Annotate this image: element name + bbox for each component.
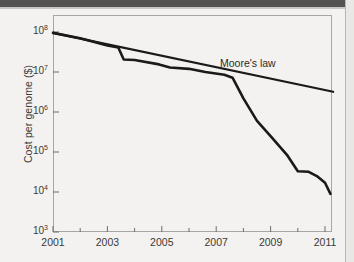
plot-canvas (0, 0, 354, 262)
page-right-edge-strip (345, 0, 354, 262)
x-tick-label-2001: 2001 (32, 236, 74, 248)
series-line-cost-per-genome (53, 33, 330, 194)
x-tick-label-2005: 2005 (141, 236, 183, 248)
x-tick-label-2007: 2007 (195, 236, 237, 248)
x-tick-label-2003: 2003 (86, 236, 128, 248)
data-series (53, 33, 333, 194)
y-axis-title: Cost per genome ($) (22, 29, 34, 199)
series-line-moores-law (53, 33, 333, 92)
y-tick-label-3: 103 (14, 225, 48, 236)
moores-law-annotation: Moore's law (220, 57, 276, 69)
x-tick-label-2011: 2011 (304, 236, 346, 248)
x-tick-label-2009: 2009 (250, 236, 292, 248)
chart-screenshot: 103104105106107108 200120032005200720092… (0, 0, 354, 262)
